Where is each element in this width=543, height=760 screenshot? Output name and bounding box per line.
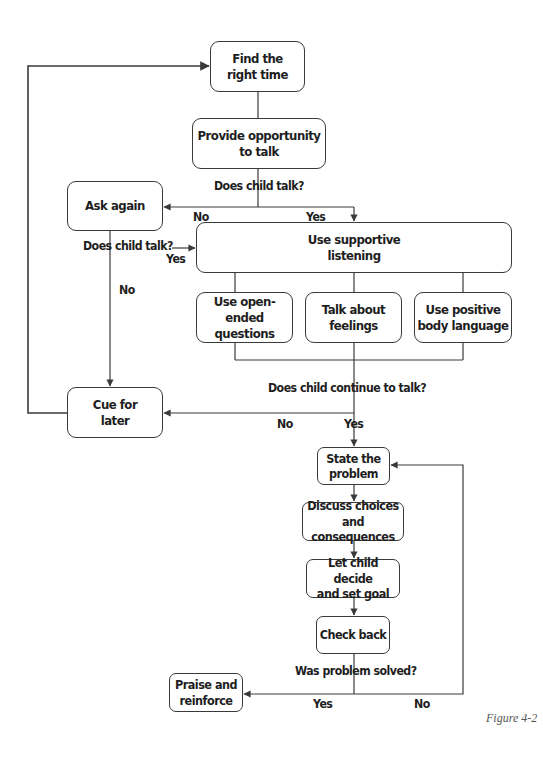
question-does-child-talk-1: Does child talk?: [214, 178, 304, 193]
node-let-child-decide: Let child decide and set goal: [306, 559, 400, 598]
node-provide-opportunity: Provide opportunity to talk: [192, 118, 326, 169]
question-problem-solved: Was problem solved?: [295, 663, 417, 678]
node-find-right-time: Find the right time: [210, 41, 305, 92]
label-yes-3: Yes: [344, 416, 363, 431]
question-continue-to-talk: Does child continue to talk?: [268, 380, 426, 395]
label-yes-1: Yes: [306, 209, 325, 224]
node-cue-for-later: Cue for later: [67, 387, 163, 438]
label-no-2: No: [119, 282, 135, 297]
node-check-back: Check back: [316, 616, 390, 654]
node-discuss-choices: Discuss choices and consequences: [302, 502, 404, 541]
node-positive-body-language: Use positive body language: [414, 292, 512, 343]
node-talk-about-feelings: Talk about feelings: [305, 292, 402, 343]
label-no-4: No: [414, 696, 430, 711]
label-yes-4: Yes: [313, 696, 332, 711]
node-praise-reinforce: Praise and reinforce: [169, 673, 243, 712]
node-state-the-problem: State the problem: [317, 447, 390, 485]
label-yes-2: Yes: [166, 251, 185, 266]
label-no-1: No: [193, 209, 209, 224]
question-does-child-talk-2: Does child talk?: [83, 238, 173, 253]
node-ask-again: Ask again: [67, 181, 163, 231]
figure-caption: Figure 4-2: [486, 711, 537, 726]
node-supportive-listening: Use supportive listening: [196, 222, 512, 273]
label-no-3: No: [277, 416, 293, 431]
node-open-ended-questions: Use open-ended questions: [196, 292, 293, 343]
